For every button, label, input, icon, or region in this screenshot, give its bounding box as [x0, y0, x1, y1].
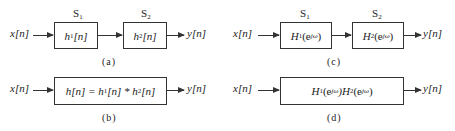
- block-convolution: h[n] = h1[n] * h2[n]: [54, 77, 167, 105]
- output-signal-b: y[n]: [187, 82, 206, 94]
- input-signal-b: x[n]: [10, 82, 29, 94]
- arrow-icon: [404, 90, 421, 91]
- arrow-icon: [167, 90, 184, 91]
- caption-a: (a): [102, 56, 116, 67]
- input-signal-d: x[n]: [233, 82, 252, 94]
- caption-b: (b): [102, 112, 117, 123]
- output-signal-a: y[n]: [187, 27, 206, 39]
- arrow-icon: [33, 35, 53, 36]
- caption-c: (c): [327, 56, 341, 67]
- arrow-icon: [33, 90, 53, 91]
- system-label-s2-a: S2: [141, 7, 151, 21]
- block-H1H2: H1(ejω)H2(ejω): [280, 77, 404, 105]
- arrow-icon: [98, 35, 122, 36]
- input-signal-c: x[n]: [233, 27, 252, 39]
- block-H1: H1(ejω): [280, 22, 332, 49]
- arrow-icon: [167, 35, 184, 36]
- system-label-s1-c: S1: [300, 7, 310, 21]
- arrow-icon: [258, 90, 279, 91]
- system-label-s1-a: S1: [73, 7, 83, 21]
- system-label-s2-c: S2: [372, 7, 382, 21]
- arrow-icon: [404, 35, 421, 36]
- block-H2: H2(ejω): [352, 22, 404, 49]
- arrow-icon: [332, 35, 351, 36]
- output-signal-c: y[n]: [423, 27, 442, 39]
- input-signal-a: x[n]: [10, 27, 29, 39]
- block-h1: h1[n]: [54, 22, 98, 49]
- output-signal-d: y[n]: [423, 82, 442, 94]
- caption-d: (d): [327, 112, 342, 123]
- arrow-icon: [258, 35, 279, 36]
- block-h2: h2[n]: [123, 22, 167, 49]
